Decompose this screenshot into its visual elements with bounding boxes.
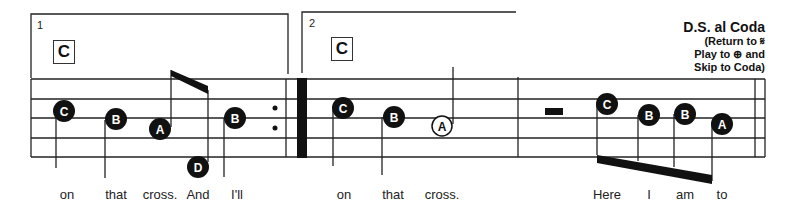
note-head-b: B bbox=[224, 107, 246, 129]
note-head-b: B bbox=[383, 106, 405, 128]
svg-text:A: A bbox=[718, 118, 727, 132]
svg-text:A: A bbox=[156, 123, 165, 137]
direction-line: Play to ⊕ and bbox=[683, 48, 765, 61]
beam-final-measure bbox=[597, 155, 712, 184]
thick-barline bbox=[297, 78, 307, 158]
chord-symbol: C bbox=[53, 40, 75, 64]
beam-first-ending bbox=[171, 70, 208, 94]
lyric-word: on bbox=[60, 187, 74, 202]
svg-text:D: D bbox=[194, 161, 203, 175]
half-rest bbox=[545, 108, 563, 115]
svg-text:A: A bbox=[438, 120, 447, 134]
svg-text:B: B bbox=[645, 109, 654, 123]
svg-text:B: B bbox=[231, 112, 240, 126]
ending-number-2: 2 bbox=[309, 17, 315, 29]
note-head-d: D bbox=[187, 156, 209, 178]
direction-title: D.S. al Coda bbox=[683, 20, 765, 35]
lyric-word: Here bbox=[593, 187, 621, 202]
lyric-word: I'll bbox=[231, 187, 243, 202]
lyric-word: to bbox=[717, 187, 728, 202]
lyric-word: that bbox=[382, 187, 404, 202]
lyric-word: that bbox=[105, 187, 127, 202]
ds-al-coda-direction: D.S. al Coda (Return to 𝄋 Play to ⊕ and … bbox=[683, 20, 765, 74]
note-head-a: A bbox=[149, 118, 171, 140]
svg-text:B: B bbox=[390, 111, 399, 125]
note-head-b: B bbox=[105, 108, 127, 130]
ending-number-1: 1 bbox=[37, 19, 43, 31]
svg-text:B: B bbox=[112, 113, 121, 127]
lyric-word: on bbox=[337, 187, 351, 202]
svg-text:C: C bbox=[603, 98, 612, 112]
lyric-word: am bbox=[676, 187, 694, 202]
lyric-word: cross. bbox=[143, 187, 178, 202]
note-head-b: B bbox=[638, 104, 660, 126]
note-head-b: B bbox=[674, 103, 696, 125]
note-head-a-half: A bbox=[432, 116, 452, 136]
direction-line: Skip to Coda) bbox=[683, 61, 765, 74]
lyric-word: And bbox=[186, 187, 209, 202]
note-head-a: A bbox=[711, 113, 733, 135]
svg-text:B: B bbox=[681, 108, 690, 122]
note-head-c: C bbox=[596, 93, 618, 115]
note-head-c: C bbox=[332, 97, 354, 119]
svg-text:C: C bbox=[60, 105, 69, 119]
svg-text:C: C bbox=[339, 102, 348, 116]
lyric-word: cross. bbox=[425, 187, 460, 202]
direction-line: (Return to 𝄋 bbox=[683, 35, 765, 48]
lyric-word: I bbox=[647, 187, 651, 202]
note-head-c: C bbox=[53, 100, 75, 122]
chord-symbol: C bbox=[331, 37, 353, 61]
